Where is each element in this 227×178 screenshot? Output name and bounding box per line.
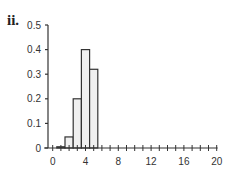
x-tick-label: 0 xyxy=(50,156,56,167)
bar-chart: 00.10.20.30.40.5048121620 xyxy=(0,0,227,178)
y-tick-label: 0.1 xyxy=(27,118,41,129)
x-tick-label: 20 xyxy=(211,156,223,167)
y-tick-label: 0.4 xyxy=(27,44,41,55)
bar xyxy=(81,50,89,148)
y-tick-label: 0.5 xyxy=(27,20,41,31)
y-tick-label: 0 xyxy=(35,143,41,154)
bar xyxy=(90,69,98,148)
x-tick-label: 4 xyxy=(83,156,89,167)
x-tick-label: 16 xyxy=(178,156,190,167)
y-tick-label: 0.2 xyxy=(27,93,41,104)
y-tick-label: 0.3 xyxy=(27,69,41,80)
x-tick-label: 12 xyxy=(146,156,158,167)
bar xyxy=(73,99,81,148)
x-tick-label: 8 xyxy=(116,156,122,167)
